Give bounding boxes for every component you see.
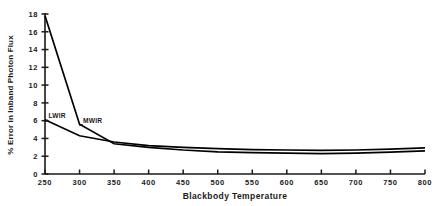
chart-figure: 250300350400450500550600650700750800 024… — [0, 0, 441, 206]
y-axis-tick-label: 2 — [33, 152, 38, 161]
x-axis-tick-label: 700 — [349, 178, 363, 187]
x-axis-tick-label: 800 — [418, 178, 432, 187]
line-chart-canvas: 250300350400450500550600650700750800 024… — [0, 0, 441, 206]
y-axis-tick-label: 8 — [33, 99, 38, 108]
x-axis-tick-label: 600 — [280, 178, 294, 187]
series-annotation-lwir: LWIR — [49, 112, 66, 119]
chart-background — [0, 0, 441, 206]
x-axis-tick-label: 750 — [383, 178, 397, 187]
x-axis-title: Blackbody Temperature — [183, 191, 288, 201]
y-axis-title: % Error in Inband Photon Flux — [6, 35, 15, 155]
y-axis-tick-label: 4 — [33, 134, 38, 143]
y-axis-tick-label: 6 — [33, 116, 38, 125]
x-axis-tick-label: 650 — [314, 178, 328, 187]
x-axis-tick-label: 400 — [141, 178, 155, 187]
x-axis-tick-label: 250 — [38, 178, 52, 187]
y-axis-tick-label: 16 — [28, 28, 38, 37]
x-axis-tick-label: 350 — [107, 178, 121, 187]
x-axis-tick-label: 500 — [211, 178, 225, 187]
y-axis-tick-label: 0 — [33, 170, 38, 179]
x-axis-tick-label: 550 — [245, 178, 259, 187]
x-axis-tick-label: 300 — [72, 178, 86, 187]
y-axis-tick-label: 18 — [28, 10, 38, 19]
series-annotation-mwir: MWIR — [83, 117, 102, 124]
x-axis-tick-label: 450 — [176, 178, 190, 187]
y-axis-tick-label: 12 — [28, 63, 38, 72]
y-axis-tick-label: 10 — [28, 81, 38, 90]
y-axis-tick-label: 14 — [28, 45, 38, 54]
